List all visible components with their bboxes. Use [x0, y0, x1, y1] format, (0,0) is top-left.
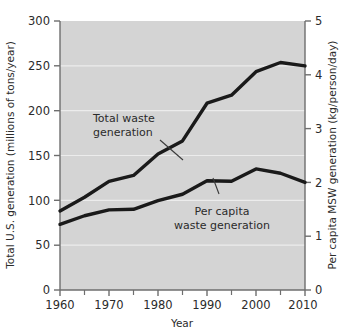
y2tick-label-4: 4	[315, 68, 322, 82]
total-waste-annotation: Total waste generation	[92, 112, 155, 139]
ytick-label-50: 50	[35, 238, 50, 252]
x-axis-tick-labels: 1960 1970 1980 1990 2000 2010	[45, 298, 317, 312]
xtick-label-1980: 1980	[143, 298, 172, 312]
y2tick-label-5: 5	[315, 14, 322, 28]
left-axis-ticks	[54, 21, 60, 290]
chart-figure: 0 50 100 150 200 250 300 0 1 2 3 4 5	[0, 0, 344, 336]
ytick-label-300: 300	[28, 14, 50, 28]
y2tick-label-0: 0	[315, 283, 322, 297]
right-axis-tick-labels: 0 1 2 3 4 5	[315, 14, 322, 297]
per-capita-annotation-line1: Per capita	[195, 205, 250, 218]
ytick-label-200: 200	[28, 104, 50, 118]
y-axis-title: Total U.S. generation (millions of tons/…	[4, 41, 16, 270]
y2-axis-title: Per capita MSW generation (kg/person/day…	[326, 41, 338, 270]
xtick-label-1960: 1960	[45, 298, 74, 312]
right-axis-ticks	[305, 21, 311, 290]
total-waste-annotation-line1: Total waste	[92, 112, 155, 125]
ytick-label-150: 150	[28, 149, 50, 163]
ytick-label-250: 250	[28, 59, 50, 73]
line-chart: 0 50 100 150 200 250 300 0 1 2 3 4 5	[0, 0, 344, 336]
xtick-label-1990: 1990	[192, 298, 221, 312]
y2tick-label-3: 3	[315, 122, 322, 136]
ytick-label-100: 100	[28, 194, 50, 208]
y2tick-label-1: 1	[315, 229, 322, 243]
xtick-label-2010: 2010	[288, 298, 317, 312]
y2tick-label-2: 2	[315, 176, 322, 190]
left-axis-tick-labels: 0 50 100 150 200 250 300	[28, 14, 50, 297]
xtick-label-1970: 1970	[94, 298, 123, 312]
per-capita-annotation-line2: waste generation	[174, 219, 270, 232]
ytick-label-0: 0	[43, 283, 50, 297]
xtick-label-2000: 2000	[241, 298, 270, 312]
x-axis-title: Year	[170, 317, 194, 329]
x-axis-minor-ticks	[85, 290, 281, 295]
total-waste-annotation-line2: generation	[93, 126, 153, 139]
